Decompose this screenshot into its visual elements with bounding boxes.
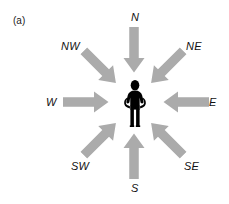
direction-label-e: E (209, 96, 217, 108)
arrow-northwest (75, 42, 126, 93)
panel-label: (a) (13, 15, 25, 26)
arrow-southwest (75, 114, 126, 165)
direction-label-w: W (46, 96, 57, 108)
standing-person-icon (120, 79, 150, 127)
arrow-south (121, 133, 147, 179)
arrow-north (121, 27, 147, 73)
direction-diagram-figure: (a) N NE E SE S SW W NW (0, 0, 229, 204)
direction-label-s: S (131, 182, 139, 194)
direction-label-nw: NW (61, 40, 80, 52)
direction-label-ne: NE (186, 40, 202, 52)
arrow-west (63, 89, 109, 115)
direction-label-se: SE (184, 160, 199, 172)
direction-label-n: N (131, 11, 139, 23)
arrow-east (163, 89, 209, 115)
direction-label-sw: SW (71, 160, 89, 172)
